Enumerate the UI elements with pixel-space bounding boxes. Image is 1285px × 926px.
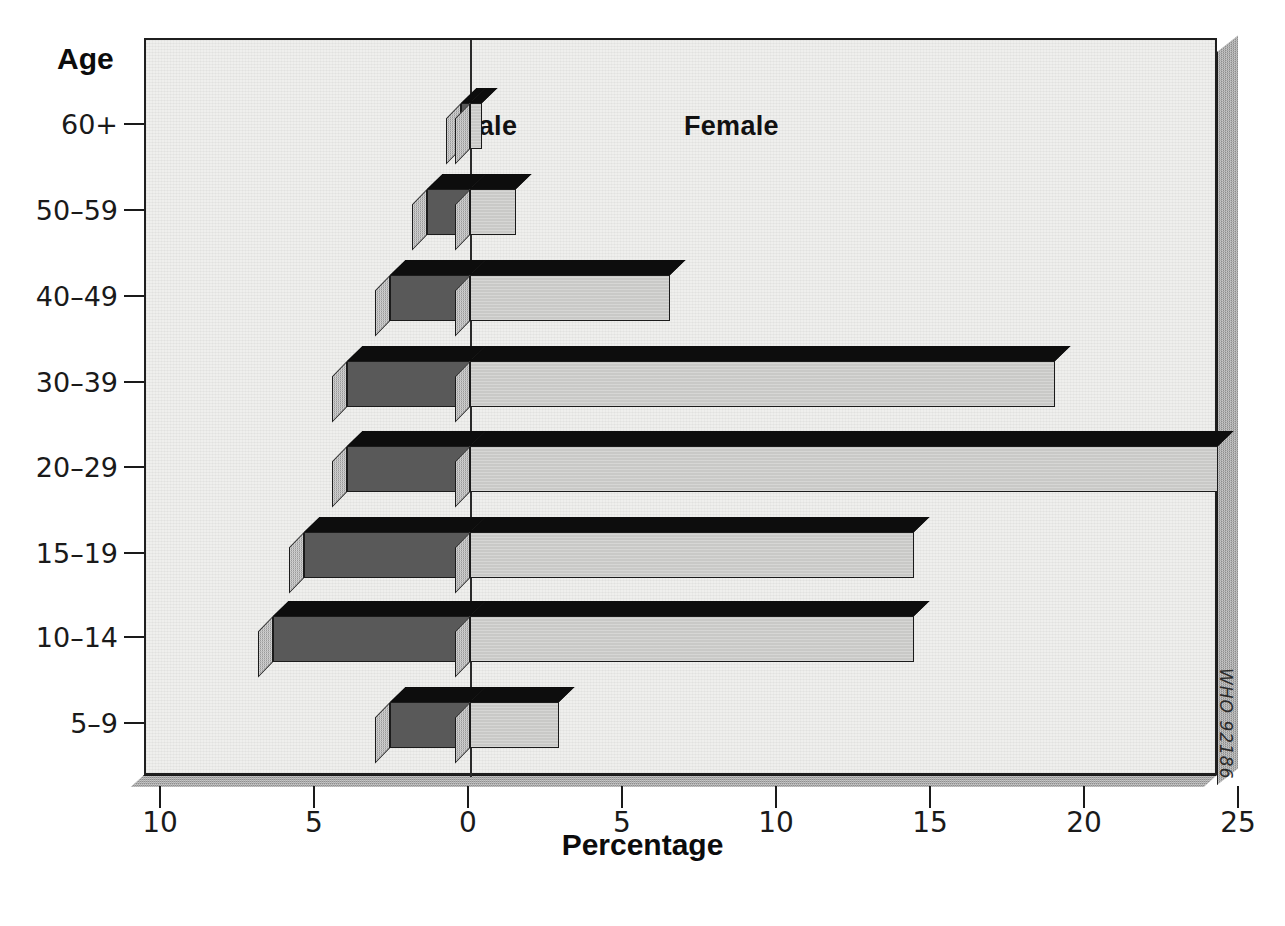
bar-female-4 [470,446,1218,492]
bar-male-5 [304,532,470,578]
y-axis-tick-mark [124,466,144,468]
bar-male-4 [347,446,470,492]
bar-side-face [332,446,347,508]
bar-male-6 [273,616,470,662]
x-axis-tick-mark [775,786,777,808]
bar-side-face [289,532,304,594]
bar-top-face [304,517,486,532]
bar-side-face [332,361,347,423]
bar-female-7 [470,702,559,748]
bar-top-face [470,517,929,532]
x-axis-tick-mark [467,786,469,808]
bar-side-face [375,275,390,337]
bar-front-face [470,702,559,748]
y-axis-tick-mark [124,381,144,383]
bar-side-face [258,616,273,678]
who-credit-label: WHO 92186 [1216,668,1236,779]
y-axis-tick-label: 50–59 [36,195,118,226]
plot-area: Male Female [144,38,1217,775]
bar-top-face [347,431,486,446]
bar-top-face [273,601,486,616]
series-label-female: Female [684,111,779,142]
bar-front-face [304,532,470,578]
y-axis-tick-label: 15–19 [36,538,118,569]
bar-side-face [375,702,390,764]
bar-top-face [470,601,929,616]
bar-side-face [412,189,427,251]
bar-front-face [470,446,1218,492]
x-axis-tick-mark [313,786,315,808]
y-axis-tick-mark [124,722,144,724]
x-axis-tick-mark [621,786,623,808]
y-axis-tick-label: 40–49 [36,281,118,312]
bar-front-face [470,103,482,149]
x-axis-tick-mark [1237,786,1239,808]
bar-top-face [347,346,486,361]
y-axis-tick-label: 60+ [61,109,118,140]
x-axis-title: Percentage [0,828,1285,862]
y-axis-tick-label: 10–14 [36,622,118,653]
bar-front-face [470,189,516,235]
bar-front-face [347,446,470,492]
x-axis-tick-mark [159,786,161,808]
y-axis-title: Age [57,42,114,76]
y-axis-tick-mark [124,209,144,211]
bar-front-face [347,361,470,407]
zero-axis-line [470,40,472,777]
bar-top-face [470,431,1234,446]
bar-female-3 [470,361,1055,407]
bar-female-6 [470,616,914,662]
plot-frame-bottom-shadow [131,775,1217,787]
bar-female-5 [470,532,914,578]
bar-male-3 [347,361,470,407]
bar-front-face [470,361,1055,407]
y-axis-tick-mark [124,123,144,125]
bar-female-1 [470,189,516,235]
y-axis-tick-label: 20–29 [36,452,118,483]
bar-front-face [470,616,914,662]
bar-female-0 [470,103,482,149]
bar-top-face [470,260,686,275]
y-axis-tick-mark [124,295,144,297]
y-axis-tick-mark [124,636,144,638]
bar-female-2 [470,275,670,321]
population-pyramid-chart: Age Male Female 60+50–5940–4930–3920–291… [0,0,1285,926]
y-axis-tick-label: 5–9 [70,708,118,739]
bar-front-face [273,616,470,662]
y-axis-tick-label: 30–39 [36,367,118,398]
bar-front-face [470,532,914,578]
bar-top-face [470,346,1071,361]
bar-top-face [470,687,575,702]
x-axis-tick-mark [1083,786,1085,808]
x-axis-tick-mark [929,786,931,808]
y-axis-tick-mark [124,552,144,554]
bar-front-face [470,275,670,321]
